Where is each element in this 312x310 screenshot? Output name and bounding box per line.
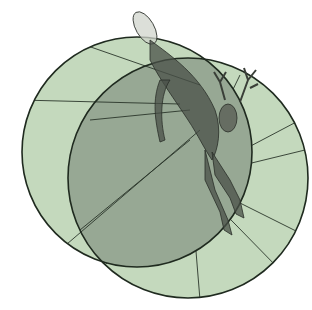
illustration	[0, 0, 312, 310]
